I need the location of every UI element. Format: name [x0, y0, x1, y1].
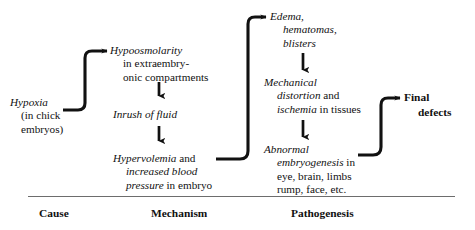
node-hypervolemia-line-2: pressure in embryo: [113, 179, 212, 192]
node-hypoxia-line-0: Hypoxia: [10, 96, 63, 109]
node-hypoxia: Hypoxia (in chick embryos): [10, 96, 63, 136]
node-final-defects: Final defects: [404, 90, 452, 119]
connector-abnormal-to-final-defects: [358, 98, 400, 155]
node-final-defects-line-0: Final: [404, 90, 452, 105]
node-hypervolemia-line-2-italic: pressure: [126, 179, 164, 191]
node-mechanical-line-1-roman: and: [321, 89, 340, 101]
node-hypervolemia-line-0-italic: Hypervolemia: [113, 152, 176, 164]
node-abnormal-line-1-italic: embryogenesis: [277, 156, 344, 168]
node-abnormal-line-1-roman: in: [344, 156, 356, 168]
connector-hypoxia-to-hypoosmolarity: [63, 51, 107, 110]
node-hypoosmolarity-line-0: Hypoosmolarity: [110, 44, 208, 57]
column-divider-rule: [28, 196, 455, 197]
node-hypoosmolarity-line-2: onic compartments: [110, 71, 208, 84]
node-hypoxia-line-2: embryos): [10, 123, 63, 136]
node-edema-line-0: Edema,: [270, 10, 337, 23]
column-label-pathogenesis: Pathogenesis: [291, 207, 354, 219]
node-edema-line-2: blisters: [270, 37, 337, 50]
node-hypervolemia-line-1: increased blood: [113, 165, 212, 178]
node-hypoosmolarity: Hypoosmolarity in extraembry- onic compa…: [110, 44, 208, 84]
node-inrush-line-0: Inrush of fluid: [113, 108, 177, 121]
node-mechanical-line-2: ischemia in tissues: [264, 103, 361, 116]
node-hypervolemia-line-2-roman: in embryo: [164, 179, 212, 191]
node-abnormal-line-3: rump, face, etc.: [264, 183, 355, 196]
node-inrush-of-fluid: Inrush of fluid: [113, 108, 177, 121]
column-label-cause: Cause: [39, 207, 69, 219]
node-mechanical-line-2-italic: ischemia: [277, 103, 317, 115]
node-abnormal-line-2: eye, brain, limbs: [264, 170, 355, 183]
node-abnormal-line-0: Abnormal: [264, 143, 355, 156]
node-hypoosmolarity-line-1: in extraembry-: [110, 57, 208, 70]
node-mechanical-line-1: distortion and: [264, 89, 361, 102]
node-mechanical-distortion: Mechanical distortion and ischemia in ti…: [264, 76, 361, 116]
node-mechanical-line-1-italic: distortion: [277, 89, 321, 101]
node-edema-line-1: hematomas,: [270, 23, 337, 36]
node-hypoxia-line-1: (in chick: [10, 109, 63, 122]
node-abnormal-embryogenesis: Abnormal embryogenesis in eye, brain, li…: [264, 143, 355, 197]
connector-hypervolemia-to-edema: [216, 17, 266, 159]
node-abnormal-line-1: embryogenesis in: [264, 156, 355, 169]
node-hypervolemia: Hypervolemia and increased blood pressur…: [113, 152, 212, 192]
node-final-defects-line-1: defects: [404, 105, 452, 120]
node-hypervolemia-line-0-roman: and: [176, 152, 195, 164]
column-label-mechanism: Mechanism: [151, 207, 207, 219]
node-edema: Edema, hematomas, blisters: [270, 10, 337, 50]
node-hypervolemia-line-0: Hypervolemia and: [113, 152, 212, 165]
node-mechanical-line-0: Mechanical: [264, 76, 361, 89]
node-mechanical-line-2-roman: in tissues: [317, 103, 361, 115]
flow-diagram: Hypoxia (in chick embryos) Hypoosmolarit…: [0, 0, 475, 230]
